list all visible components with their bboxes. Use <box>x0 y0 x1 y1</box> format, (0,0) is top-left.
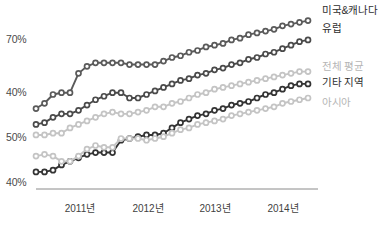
data-point-marker <box>59 111 64 116</box>
series-4 <box>34 81 311 174</box>
data-point-marker <box>212 118 217 123</box>
data-point-marker <box>195 73 200 78</box>
data-point-marker <box>127 136 132 141</box>
data-point-marker <box>161 104 166 109</box>
data-point-marker <box>127 96 132 101</box>
data-point-marker <box>246 32 251 37</box>
data-point-marker <box>246 80 251 85</box>
data-point-marker <box>204 44 209 49</box>
data-point-marker <box>272 27 277 32</box>
data-point-marker <box>170 101 175 106</box>
data-point-marker <box>263 106 268 111</box>
data-point-marker <box>144 62 149 67</box>
data-point-marker <box>289 22 294 27</box>
data-point-marker <box>42 101 47 106</box>
data-point-marker <box>68 111 73 116</box>
data-point-marker <box>272 90 277 95</box>
data-point-marker <box>119 60 124 65</box>
data-point-marker <box>221 41 226 46</box>
data-point-marker <box>34 106 39 111</box>
data-point-marker <box>34 132 39 137</box>
data-point-marker <box>153 88 158 93</box>
data-point-marker <box>306 69 311 74</box>
data-point-marker <box>102 94 107 99</box>
data-point-marker <box>59 131 64 136</box>
data-point-marker <box>221 117 226 122</box>
data-point-marker <box>187 50 192 55</box>
data-point-marker <box>306 37 311 42</box>
data-point-marker <box>246 99 251 104</box>
data-point-marker <box>280 87 285 92</box>
data-point-marker <box>306 18 311 23</box>
data-point-marker <box>42 169 47 174</box>
data-point-marker <box>178 53 183 58</box>
data-point-marker <box>42 152 47 157</box>
data-point-marker <box>263 92 268 97</box>
data-point-marker <box>119 90 124 95</box>
data-point-marker <box>59 159 64 164</box>
data-point-marker <box>153 136 158 141</box>
data-point-marker <box>136 110 141 115</box>
data-point-marker <box>110 110 115 115</box>
data-point-marker <box>263 52 268 57</box>
data-point-marker <box>136 136 141 141</box>
data-point-marker <box>110 150 115 155</box>
series-label-1: 미국&캐나다 <box>322 2 377 17</box>
series-label-4: 기타 지역 <box>322 74 363 89</box>
data-point-marker <box>136 62 141 67</box>
data-point-marker <box>204 90 209 95</box>
data-point-marker <box>229 83 234 88</box>
data-point-marker <box>42 132 47 137</box>
data-point-marker <box>246 110 251 115</box>
data-point-marker <box>76 154 81 159</box>
data-point-marker <box>144 92 149 97</box>
data-point-marker <box>280 46 285 51</box>
x-axis-tick-label: 2011년 <box>65 200 96 215</box>
data-point-marker <box>255 78 260 83</box>
data-point-marker <box>255 96 260 101</box>
data-point-marker <box>238 111 243 116</box>
data-point-marker <box>34 154 39 159</box>
data-point-marker <box>93 115 98 120</box>
data-point-marker <box>195 122 200 127</box>
data-point-marker <box>144 138 149 143</box>
data-point-marker <box>85 152 90 157</box>
data-point-marker <box>119 136 124 141</box>
data-point-marker <box>85 118 90 123</box>
data-point-marker <box>212 87 217 92</box>
x-axis-tick-label: 2013년 <box>199 200 230 215</box>
data-point-marker <box>76 108 81 113</box>
data-point-marker <box>76 122 81 127</box>
data-point-marker <box>195 113 200 118</box>
data-point-marker <box>221 66 226 71</box>
data-point-marker <box>170 131 175 136</box>
data-point-marker <box>136 96 141 101</box>
data-point-marker <box>153 104 158 109</box>
data-point-marker <box>34 122 39 127</box>
data-point-marker <box>229 103 234 108</box>
data-point-marker <box>110 90 115 95</box>
data-point-marker <box>76 71 81 76</box>
y-axis-tick-label: 70% <box>6 33 26 45</box>
data-point-marker <box>263 29 268 34</box>
data-point-marker <box>187 125 192 130</box>
data-point-marker <box>102 150 107 155</box>
data-point-marker <box>102 60 107 65</box>
y-axis-tick-label: 40% <box>6 176 26 188</box>
data-point-marker <box>110 60 115 65</box>
data-point-marker <box>255 55 260 60</box>
data-point-marker <box>212 43 217 48</box>
data-point-marker <box>238 60 243 65</box>
data-point-marker <box>187 96 192 101</box>
data-point-marker <box>289 71 294 76</box>
data-point-marker <box>144 132 149 137</box>
series-label-5: 아시아 <box>322 94 351 109</box>
data-point-marker <box>297 81 302 86</box>
data-point-marker <box>289 99 294 104</box>
data-point-marker <box>119 111 124 116</box>
data-point-marker <box>238 36 243 41</box>
data-point-marker <box>51 168 56 173</box>
data-point-marker <box>255 108 260 113</box>
data-point-marker <box>187 117 192 122</box>
data-point-marker <box>306 81 311 86</box>
